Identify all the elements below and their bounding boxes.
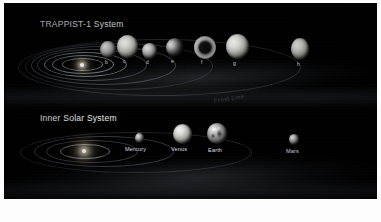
planet-mercury: [135, 133, 144, 143]
trappist-planet-f: [194, 36, 216, 59]
trappist-planet-e: [166, 38, 184, 57]
trappist-planet-c: [117, 35, 138, 58]
trappist-planet-label-f: f: [201, 59, 202, 65]
trappist-planet-label-b: b: [105, 59, 108, 65]
trappist-planet-label-h: h: [297, 61, 300, 67]
dust-band-lower: [4, 179, 377, 199]
trappist-planet-label-g: g: [233, 60, 236, 66]
planet-venus: [173, 124, 192, 144]
planet-label-earth: Earth: [208, 147, 222, 153]
trappist-planet-d: [142, 43, 157, 59]
trappist-planet-label-e: e: [171, 58, 174, 64]
trappist-orbit-h: [18, 39, 301, 96]
planet-label-mars: Mars: [286, 148, 299, 154]
frost-line-annotation: Frost Line: [214, 93, 245, 104]
trappist-planet-label-c: c: [123, 58, 126, 64]
earth-surface-detail: [207, 123, 227, 144]
planet-earth: [207, 123, 227, 144]
trappist-planet-label-d: d: [146, 59, 149, 65]
planet-mars: [289, 134, 299, 145]
planet-f-annulus: [194, 36, 216, 59]
figure-frame: TRAPPIST-1 System b c d e f g h Frost Li…: [0, 0, 381, 222]
space-scene: TRAPPIST-1 System b c d e f g h Frost Li…: [4, 3, 377, 199]
trappist-planet-g: [226, 34, 249, 59]
trappist-planet-b: [100, 41, 116, 58]
planet-label-venus: Venus: [171, 146, 187, 152]
inner-solar-system-heading: Inner Solar System: [40, 113, 117, 123]
trappist-system-heading: TRAPPIST-1 System: [40, 19, 124, 29]
trappist-planet-h: [291, 38, 309, 60]
trappist-1-star: [80, 63, 84, 67]
planet-label-mercury: Mercury: [125, 146, 146, 152]
sun-star: [82, 149, 86, 153]
